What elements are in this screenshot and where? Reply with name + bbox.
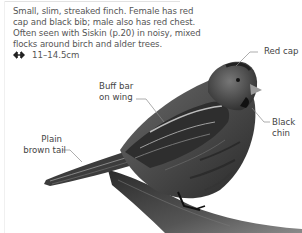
label-black-chin: Black chin — [272, 117, 295, 138]
label-plain-tail: Plain brown tail — [16, 134, 66, 155]
field-guide-entry: Small, slim, streaked finch. Female has … — [0, 0, 302, 233]
label-red-cap: Red cap — [264, 46, 299, 57]
eye — [236, 78, 240, 82]
redpoll-illustration — [0, 0, 302, 233]
label-buff-bar: Buff bar on wing — [99, 81, 133, 102]
